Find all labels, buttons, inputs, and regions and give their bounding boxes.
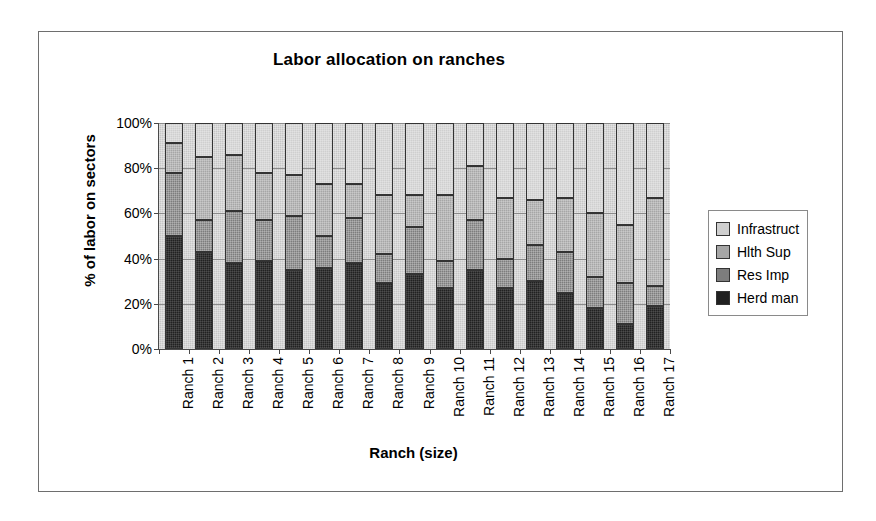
bar-segment[interactable] [586,213,604,276]
bar-segment[interactable] [646,286,664,306]
bar-stack[interactable] [646,123,664,349]
bar-segment[interactable] [285,123,303,175]
bar-segment[interactable] [496,198,514,259]
bar-segment[interactable] [466,270,484,349]
bar-segment[interactable] [526,281,544,349]
bar-segment[interactable] [375,283,393,349]
bar-segment[interactable] [496,123,514,198]
bar-segment[interactable] [225,155,243,212]
bar-segment[interactable] [646,198,664,286]
bar-stack[interactable] [345,123,363,349]
bar-segment[interactable] [315,268,333,349]
legend-item[interactable]: Hlth Sup [716,240,799,263]
bar-segment[interactable] [195,220,213,252]
bar-segment[interactable] [646,123,664,198]
bar-stack[interactable] [165,123,183,349]
bar-segment[interactable] [195,252,213,349]
segment-texture [346,264,362,348]
legend-item[interactable]: Res Imp [716,263,799,286]
bar-segment[interactable] [496,259,514,288]
bar-segment[interactable] [586,308,604,349]
bar-segment[interactable] [345,123,363,184]
bar-segment[interactable] [405,123,423,195]
segment-texture [557,294,573,349]
segment-texture [587,278,603,308]
bar-segment[interactable] [255,220,273,261]
bar-segment[interactable] [195,123,213,157]
bar-stack[interactable] [526,123,544,349]
bar-segment[interactable] [195,157,213,220]
bar-stack[interactable] [586,123,604,349]
bar-segment[interactable] [556,293,574,350]
bar-stack[interactable] [285,123,303,349]
bar-segment[interactable] [345,218,363,263]
bar-segment[interactable] [556,123,574,198]
bar-segment[interactable] [315,236,333,268]
bar-segment[interactable] [466,123,484,166]
bar-segment[interactable] [616,283,634,324]
bar-segment[interactable] [165,123,183,143]
bar-segment[interactable] [556,198,574,252]
bar-segment[interactable] [405,195,423,227]
x-tick-mark [369,349,370,354]
bar-segment[interactable] [165,173,183,236]
bar-stack[interactable] [225,123,243,349]
segment-texture [527,201,543,244]
bar-segment[interactable] [436,261,454,288]
bar-segment[interactable] [526,245,544,281]
bar-stack[interactable] [195,123,213,349]
legend-label: Herd man [737,290,798,306]
bar-segment[interactable] [526,200,544,245]
bar-stack[interactable] [436,123,454,349]
bar-segment[interactable] [285,270,303,349]
bar-segment[interactable] [526,123,544,200]
bar-segment[interactable] [225,123,243,155]
bar-segment[interactable] [646,306,664,349]
bar-segment[interactable] [225,211,243,263]
bar-stack[interactable] [466,123,484,349]
x-tick-label: Ranch 14 [571,357,587,417]
bar-stack[interactable] [556,123,574,349]
bar-segment[interactable] [556,252,574,293]
bar-segment[interactable] [436,195,454,261]
bar-segment[interactable] [436,288,454,349]
bar-segment[interactable] [586,123,604,213]
bar-segment[interactable] [345,184,363,218]
bar-stack[interactable] [315,123,333,349]
bar-segment[interactable] [345,263,363,349]
bar-segment[interactable] [375,123,393,195]
bar-stack[interactable] [375,123,393,349]
bar-segment[interactable] [436,123,454,195]
bar-stack[interactable] [255,123,273,349]
bar-segment[interactable] [315,184,333,236]
bar-segment[interactable] [255,261,273,349]
bar-segment[interactable] [405,227,423,274]
bar-segment[interactable] [255,123,273,173]
y-tick-label: 80% [124,160,152,176]
legend-item[interactable]: Herd man [716,286,799,309]
segment-texture [527,124,543,199]
legend-swatch-icon [716,245,730,259]
bar-stack[interactable] [616,123,634,349]
bar-segment[interactable] [165,143,183,172]
bar-segment[interactable] [616,324,634,349]
bar-segment[interactable] [496,288,514,349]
bar-segment[interactable] [255,173,273,220]
bar-segment[interactable] [285,175,303,216]
bar-segment[interactable] [586,277,604,309]
bar-stack[interactable] [496,123,514,349]
bar-segment[interactable] [616,225,634,284]
bar-segment[interactable] [285,216,303,270]
bar-segment[interactable] [466,220,484,270]
bar-segment[interactable] [315,123,333,184]
bar-segment[interactable] [405,274,423,349]
bar-segment[interactable] [375,195,393,254]
bar-segment[interactable] [616,123,634,225]
bar-stack[interactable] [405,123,423,349]
bar-segment[interactable] [375,254,393,283]
legend-item[interactable]: Infrastruct [716,217,799,240]
bar-segment[interactable] [466,166,484,220]
bar-segment[interactable] [225,263,243,349]
bar-segment[interactable] [165,236,183,349]
segment-texture [166,144,182,171]
